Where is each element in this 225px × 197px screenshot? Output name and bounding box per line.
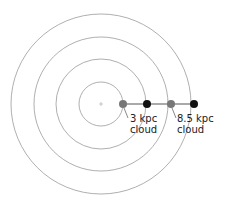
orbit-diagram [0,0,225,197]
center-marker-icon [99,102,103,106]
cloud-3kpc-label: 3 kpc cloud [130,113,157,135]
dot-2 [143,100,151,108]
dot-4 [190,100,198,108]
cloud-3kpc-label-line1: 3 kpc [130,113,157,124]
label-leader-8-5kpc [172,108,176,118]
cloud-3kpc-dot [119,100,127,108]
cloud-8-5kpc-dot [167,100,175,108]
cloud-8-5kpc-label-line1: 8.5 kpc [177,113,214,124]
cloud-8-5kpc-label: 8.5 kpc cloud [177,113,214,135]
label-leader-3kpc [124,108,128,118]
cloud-8-5kpc-label-line2: cloud [177,124,214,135]
cloud-3kpc-label-line2: cloud [130,124,157,135]
